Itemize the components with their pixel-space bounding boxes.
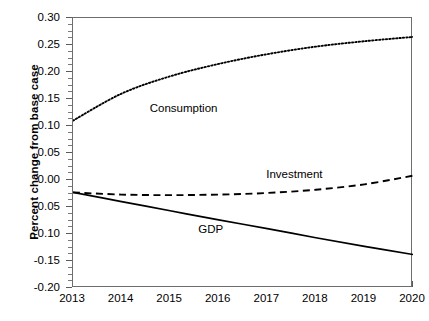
series-canvas (73, 18, 413, 288)
y-tick-label: 0.10 (8, 119, 60, 131)
y-tick-label: 0.30 (8, 11, 60, 23)
figure: Percent change from base case 0.300.250.… (0, 0, 429, 321)
y-tick-label: 0.00 (8, 173, 60, 185)
plot-area (72, 17, 412, 287)
y-tick-label: -0.10 (8, 227, 60, 239)
y-tick-label: 0.15 (8, 92, 60, 104)
series-line-gdp (73, 192, 413, 254)
y-tick-label: 0.05 (8, 146, 60, 158)
y-tick-label: -0.05 (8, 200, 60, 212)
series-label-investment: Investment (266, 168, 322, 180)
y-tick-label: 0.20 (8, 65, 60, 77)
series-label-consumption: Consumption (150, 102, 218, 114)
y-tick (66, 287, 72, 288)
series-line-investment (73, 176, 413, 195)
x-tick-label: 2020 (382, 292, 429, 304)
series-line-consumption (73, 37, 413, 121)
y-tick-label: 0.25 (8, 38, 60, 50)
series-label-gdp: GDP (198, 223, 223, 235)
y-tick-label: -0.15 (8, 254, 60, 266)
